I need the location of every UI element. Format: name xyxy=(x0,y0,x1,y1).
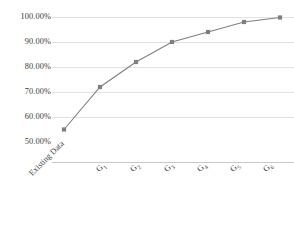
series-line xyxy=(64,18,280,130)
x-axis-tick-label-g6: G6 xyxy=(262,161,274,173)
x-axis-tick-label-g1: G1 xyxy=(95,161,107,173)
data-point-marker xyxy=(134,60,138,64)
plot-area xyxy=(52,17,294,142)
y-axis-tick-label: 100.00% xyxy=(0,13,51,21)
x-axis-tick-label-g3: G3 xyxy=(163,161,175,173)
series-markers xyxy=(62,15,282,131)
data-point-marker xyxy=(170,40,174,44)
x-axis-line xyxy=(52,162,294,163)
x-axis-tick-label-g5: G5 xyxy=(229,161,241,173)
y-axis-tick-label: 80.00% xyxy=(0,63,51,71)
data-point-marker xyxy=(206,30,210,34)
data-point-marker xyxy=(62,127,66,131)
y-axis-tick-label: 50.00% xyxy=(0,138,51,146)
x-axis-tick-label-g4: G4 xyxy=(196,161,208,173)
y-axis-tick-label: 90.00% xyxy=(0,38,51,46)
chart-container: 100.00% 90.00% 80.00% 70.00% 60.00% 50.0… xyxy=(0,0,294,227)
series-line-group xyxy=(52,17,294,142)
data-point-marker xyxy=(242,20,246,24)
data-point-marker xyxy=(98,85,102,89)
y-axis-tick-label: 60.00% xyxy=(0,113,51,121)
y-axis-tick-label: 70.00% xyxy=(0,88,51,96)
x-axis-tick-label-g2: G2 xyxy=(129,161,141,173)
data-point-marker xyxy=(278,15,282,19)
